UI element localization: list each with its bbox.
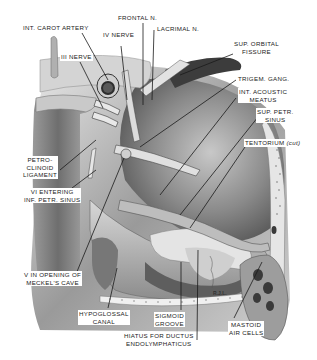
label-note: (cut) [286,139,300,146]
label-line: V IN OPENING OF [24,271,81,279]
label-sigmoid-groove: SIGMOID GROOVE [154,312,185,327]
label-line: VI ENTERING [24,188,80,196]
label-line: INT. ACOUSTIC [239,88,287,96]
label-int-acoustic-meatus: INT. ACOUSTIC MEATUS [238,88,288,103]
label-line: HYPOGLOSSAL [79,310,129,318]
label-int-carot-artery: INT. CAROT ARTERY [22,24,90,32]
label-line: CLINOID [23,164,57,172]
label-hypoglossal-canal: HYPOGLOSSAL CANAL [78,310,130,325]
label-line: FISSURE [234,48,279,56]
label-line: ENDOLYMPHATICUS [124,340,194,348]
label-line: SUP. ORBITAL [234,40,279,48]
label-sup-petr-sinus: SUP. PETR. SINUS [256,108,295,123]
label-hiatus-ductus: HIATUS FOR DUCTUS ENDOLYMPHATICUS [123,332,195,347]
label-line: PETRO- [23,156,57,164]
label-v-opening: V IN OPENING OF MECKEL'S CAVE [23,271,82,286]
label-petroclinoid-ligament: PETRO- CLINOID LIGAMENT [22,156,58,179]
label-line: SIGMOID [155,312,184,320]
label-line: AIR CELLS [229,329,263,337]
label-text: TENTORIUM [245,139,284,146]
label-iv-nerve: IV NERVE [102,31,135,39]
label-line: INF. PETR. SINUS [24,196,80,204]
label-line: HIATUS FOR DUCTUS [124,332,194,340]
label-line: MECKEL'S CAVE [24,279,81,287]
label-line: SUP. PETR. [257,108,294,116]
label-vi-entering: VI ENTERING INF. PETR. SINUS [23,188,81,203]
label-frontal-n: FRONTAL N. [117,14,158,22]
label-lacrimal-n: LACRIMAL N. [156,25,200,33]
label-sup-orbital-fissure: SUP. ORBITAL FISSURE [233,40,280,55]
label-line: SINUS [257,116,294,124]
artist-signature: R.J.L. [213,290,227,296]
label-tentorium: TENTORIUM (cut) [244,139,301,147]
label-line: CANAL [79,318,129,326]
label-line: LIGAMENT [23,171,57,179]
label-iii-nerve: III NERVE [60,53,93,61]
label-line: MASTOID [229,321,263,329]
label-mastoid-air-cells: MASTOID AIR CELLS [228,321,264,336]
label-line: GROOVE [155,320,184,328]
label-trigem-gang: TRIGEM. GANG. [237,75,290,83]
label-line: MEATUS [239,96,287,104]
